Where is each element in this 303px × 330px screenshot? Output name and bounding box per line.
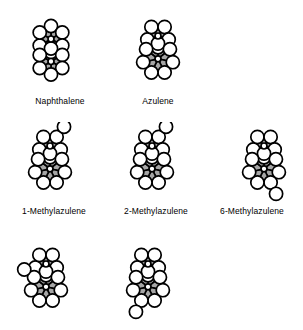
atom-circles xyxy=(33,19,69,81)
atom-circle xyxy=(131,166,144,179)
atom-circle xyxy=(140,43,153,56)
atom-circles xyxy=(18,248,68,307)
atom-circle xyxy=(246,153,259,166)
ring-center-marker xyxy=(43,261,49,267)
molecule-label-1-methylazulene: 1-Methylazulene xyxy=(4,206,104,217)
molecule-label-2-methylazulene: 2-Methylazulene xyxy=(106,206,206,217)
methyl-atom-circle xyxy=(18,263,31,276)
ring-center-marker xyxy=(149,166,155,172)
atom-circle xyxy=(158,66,171,79)
atom-circle xyxy=(153,271,166,284)
molecule-6-methylazulene xyxy=(232,122,296,204)
molecule-methylazulene-bottom-left xyxy=(14,240,78,322)
atom-circle xyxy=(37,130,50,143)
molecule-structure-2-methylazulene xyxy=(120,122,184,204)
molecule-label-6-methylazulene: 6-Methylazulene xyxy=(202,206,302,217)
molecule-2-methylazulene xyxy=(120,122,184,204)
atom-circle xyxy=(137,56,150,69)
ring-center-marker xyxy=(155,56,161,62)
ring-center-marker xyxy=(48,59,54,65)
atom-circle xyxy=(29,166,42,179)
atom-circle xyxy=(134,153,147,166)
ring-center-marker xyxy=(48,36,54,42)
atom-circle xyxy=(51,271,64,284)
atom-circle xyxy=(251,130,264,143)
ring-center-marker xyxy=(155,33,161,39)
atom-circle xyxy=(46,248,59,261)
atom-circle xyxy=(50,176,63,189)
ring-center-marker xyxy=(47,166,53,172)
atom-circle xyxy=(152,176,165,189)
atom-circle xyxy=(148,294,161,307)
methyl-atom-circle xyxy=(57,122,70,133)
atom-circle xyxy=(32,153,45,166)
ring-center-marker xyxy=(261,143,267,149)
atom-circle xyxy=(148,248,161,261)
atom-circle xyxy=(135,248,148,261)
atom-circle xyxy=(157,153,170,166)
molecule-azulene xyxy=(126,12,190,94)
ring-center-marker xyxy=(47,143,53,149)
atom-circle xyxy=(33,48,46,61)
atom-circle xyxy=(163,43,176,56)
atom-circle xyxy=(56,26,69,39)
ring-center-marker xyxy=(261,166,267,172)
ring-center-marker xyxy=(145,261,151,267)
molecule-structure-1-methylazulene xyxy=(18,122,82,204)
molecule-structure-6-methylazulene xyxy=(232,122,296,204)
molecule-methylazulene-bottom-right xyxy=(116,240,180,322)
atom-circle xyxy=(33,26,46,39)
atom-circle xyxy=(127,284,140,297)
molecule-label-azulene: Azulene xyxy=(125,96,191,107)
ring-center-marker xyxy=(149,143,155,149)
atom-circle xyxy=(269,153,282,166)
molecule-1-methylazulene xyxy=(18,122,82,204)
atom-circle xyxy=(33,248,46,261)
methyl-atom-circle xyxy=(269,187,282,200)
atom-circle xyxy=(243,166,256,179)
atom-circle xyxy=(158,20,171,33)
molecule-label-naphthalene: Naphthalene xyxy=(21,96,99,107)
atom-circle xyxy=(145,20,158,33)
atom-circle xyxy=(139,130,152,143)
molecule-figure: NaphthaleneAzulene1-Methylazulene2-Methy… xyxy=(0,0,303,330)
molecule-structure-azulene xyxy=(126,12,190,94)
ring-center-marker xyxy=(43,284,49,290)
atom-circles xyxy=(137,20,180,79)
atom-circle xyxy=(130,271,143,284)
atom-circle xyxy=(33,61,46,74)
atom-circle xyxy=(55,153,68,166)
molecule-naphthalene xyxy=(20,12,82,94)
atom-circle xyxy=(46,294,59,307)
molecule-structure-methylazulene-bottom-left xyxy=(14,240,78,322)
methyl-atom-circle xyxy=(129,305,142,318)
atom-circle xyxy=(264,130,277,143)
methyl-atom-circle xyxy=(159,122,172,133)
molecule-structure-methylazulene-bottom-right xyxy=(116,240,180,322)
atom-circle xyxy=(25,284,38,297)
ring-center-marker xyxy=(145,284,151,290)
atom-circle xyxy=(56,48,69,61)
molecule-structure-naphthalene xyxy=(20,12,82,94)
